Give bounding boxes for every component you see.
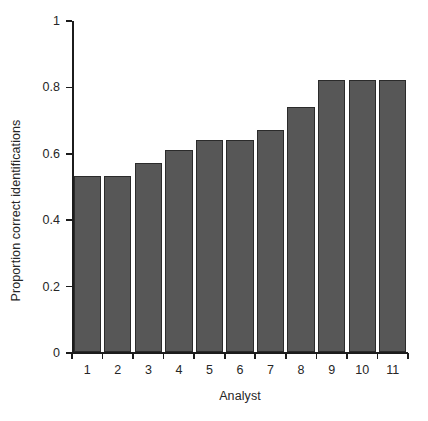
y-tick: 0.2 <box>66 286 72 288</box>
y-tick-mark <box>66 20 72 22</box>
x-tick-label: 6 <box>237 363 244 377</box>
y-tick: 0.6 <box>66 153 72 155</box>
x-tick-mark <box>102 353 104 359</box>
x-tick-mark <box>224 353 226 359</box>
y-tick-label: 1 <box>53 14 60 28</box>
y-tick-label: 0.8 <box>43 80 60 94</box>
bar-chart-figure: Proportion correct identifications 00.20… <box>0 0 428 421</box>
x-axis-line <box>72 352 408 354</box>
bar <box>287 107 314 353</box>
y-tick: 0.8 <box>66 87 72 89</box>
x-tick-label: 5 <box>206 363 213 377</box>
bar <box>74 176 101 352</box>
bar <box>165 150 192 353</box>
x-tick-mark <box>377 353 379 359</box>
bar <box>318 80 345 352</box>
plot-area: 00.20.40.60.81 1234567891011 <box>72 21 408 353</box>
x-tick-mark <box>316 353 318 359</box>
y-tick-mark <box>66 286 72 288</box>
y-tick: 0.4 <box>66 219 72 221</box>
y-axis-title: Proportion correct identifications <box>0 0 32 421</box>
x-tick-mark <box>285 353 287 359</box>
x-tick-label: 1 <box>84 363 91 377</box>
y-tick-label: 0 <box>53 346 60 360</box>
x-tick-label: 4 <box>175 363 182 377</box>
x-tick-label: 11 <box>386 363 399 377</box>
bar <box>226 140 253 352</box>
x-tick-mark <box>254 353 256 359</box>
y-tick-label: 0.2 <box>43 280 60 294</box>
x-tick-mark <box>71 353 73 359</box>
x-axis-title: Analyst <box>72 389 408 403</box>
bar <box>379 80 406 352</box>
bar <box>104 176 131 352</box>
x-tick-mark <box>193 353 195 359</box>
bar <box>135 163 162 352</box>
bar <box>196 140 223 352</box>
x-tick-mark <box>163 353 165 359</box>
x-tick-mark <box>407 353 409 359</box>
y-tick-mark <box>66 153 72 155</box>
x-tick-label: 2 <box>114 363 121 377</box>
x-tick-label: 8 <box>298 363 305 377</box>
x-tick-label: 9 <box>328 363 335 377</box>
y-tick-mark <box>66 87 72 89</box>
bar <box>257 130 284 352</box>
bar <box>349 80 376 352</box>
y-tick-label: 0.4 <box>43 213 60 227</box>
x-tick-label: 10 <box>355 363 369 377</box>
x-tick-label: 7 <box>267 363 274 377</box>
x-tick-mark <box>346 353 348 359</box>
y-tick-label: 0.6 <box>43 147 60 161</box>
y-tick: 1 <box>66 20 72 22</box>
x-tick-label: 3 <box>145 363 152 377</box>
x-tick-mark <box>132 353 134 359</box>
y-tick-mark <box>66 219 72 221</box>
